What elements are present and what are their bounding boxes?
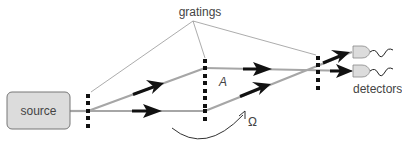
rotation-arc bbox=[172, 111, 245, 139]
path-a-label: A bbox=[218, 75, 227, 89]
detector-lower bbox=[353, 65, 393, 77]
grating-1 bbox=[86, 94, 90, 128]
arrow-icon bbox=[330, 64, 353, 78]
source-box: source bbox=[7, 92, 70, 129]
arrow-icon bbox=[243, 62, 272, 76]
beam-arrows bbox=[132, 50, 353, 118]
arrow-icon bbox=[323, 50, 350, 63]
interferometer-diagram: source gratings detectors A Ω bbox=[0, 0, 402, 150]
arrow-icon bbox=[132, 104, 162, 118]
source-label: source bbox=[20, 104, 56, 118]
detectors-label: detectors bbox=[353, 82, 402, 96]
grating-2 bbox=[203, 59, 207, 121]
arrow-icon bbox=[133, 80, 164, 95]
arrow-icon bbox=[240, 82, 271, 97]
gratings-label: gratings bbox=[179, 5, 222, 19]
beam-paths bbox=[70, 52, 352, 111]
detector-upper bbox=[353, 46, 393, 58]
rotation-label: Ω bbox=[248, 115, 257, 129]
grating-3 bbox=[316, 56, 320, 90]
